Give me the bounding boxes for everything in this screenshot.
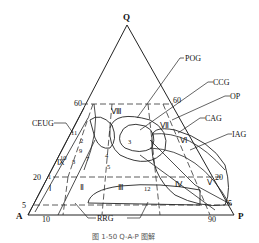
sample-point-9: 9 [79,147,82,154]
vertex-label-q: Q [123,12,130,22]
sample-point-3: 3 [128,138,131,145]
series-label-ceug: CEUG [32,119,54,128]
sample-point-12: 12 [144,185,151,192]
series-label-iag: IAG [232,130,246,139]
series-label-ccg: CCG [213,78,230,87]
field-IV: Ⅳ [175,180,183,189]
field-III: Ⅲ [118,183,124,192]
tick-left-5: 5 [22,201,26,210]
figure-caption: 图 1-50 Q-A-P 图解 [92,232,155,241]
field-I: Ⅰ [49,184,51,193]
field-II: Ⅱ [80,183,84,192]
tick-left-60: 60 [74,99,82,108]
sample-point-2: 2 [80,137,83,144]
tick-right-5: 5 [228,199,232,208]
tick-bottom-10: 10 [42,215,50,224]
sample-point-10: 10 [60,154,67,161]
vertex-label-a: A [16,211,23,221]
vertex-label-p: P [238,211,244,221]
series-label-pog: POG [185,54,201,63]
series-envelopes [88,116,229,205]
series-label-op: OP [230,92,241,101]
qap-ternary-diagram: Q A P 60 20 5 60 20 5 10 90 Ⅰ Ⅱ Ⅲ Ⅳ Ⅴ Ⅵ … [0,0,259,243]
sample-point-4: 4 [105,152,109,159]
tick-left-20: 20 [33,173,41,182]
field-VIII: Ⅷ [111,107,122,116]
tick-bottom-90: 90 [208,215,216,224]
sample-point-8: 8 [72,158,75,165]
sample-point-5: 5 [107,163,110,170]
field-VI: Ⅵ [180,136,187,145]
sample-point-11: 11 [71,129,77,136]
triangle-frame [28,25,234,215]
field-VII: Ⅶ [160,121,169,130]
series-label-cag: CAG [205,114,222,123]
tick-right-60: 60 [173,96,181,105]
tick-right-20: 20 [215,173,223,182]
series-label-rrg: RRG [97,214,114,223]
sample-point-1: 1 [48,173,51,180]
